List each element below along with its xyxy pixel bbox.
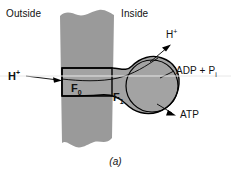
proton-inflow-arrow	[26, 76, 62, 83]
label-proton-top-charge: +	[173, 28, 177, 35]
label-adp: ADP + Pi	[176, 66, 217, 76]
label-f0-subscript: 0	[78, 89, 82, 96]
label-proton-left-text: H	[8, 70, 16, 82]
label-atp: ATP	[180, 110, 199, 120]
label-adp-subscript: i	[215, 71, 217, 78]
label-f0-text: F	[71, 82, 78, 94]
label-proton-top: H+	[166, 30, 178, 40]
atp-synthase-diagram	[0, 0, 231, 177]
label-proton-left: H+	[8, 71, 20, 82]
label-outside: Outside	[6, 9, 41, 19]
figure-caption: (a)	[0, 157, 231, 167]
label-f1-subscript: 1	[120, 98, 124, 105]
label-adp-text: ADP + P	[176, 65, 215, 76]
label-inside: Inside	[121, 9, 148, 19]
label-f0: F0	[71, 83, 82, 94]
label-f1: F1	[113, 92, 124, 103]
figure-container: Outside Inside H+ H+ ADP + Pi ATP F0 F1 …	[0, 0, 231, 177]
label-proton-left-charge: +	[16, 69, 20, 76]
label-f1-text: F	[113, 91, 120, 103]
